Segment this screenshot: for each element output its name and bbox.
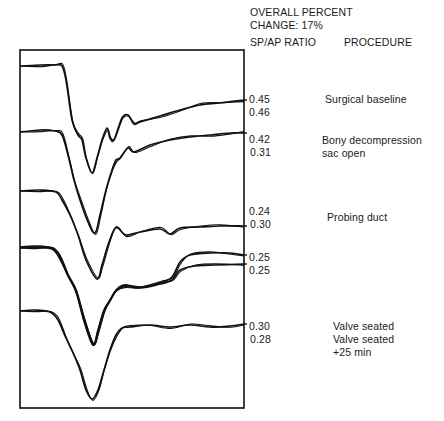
waveform-trace: [20, 246, 244, 345]
procedure-label: Valve seated: [333, 320, 394, 332]
waveform-trace: [20, 310, 244, 399]
procedure-column-header: PROCEDURE: [344, 36, 412, 48]
overall-percent-label: OVERALL PERCENT: [250, 6, 353, 18]
ratio-value: 0.30: [250, 218, 271, 230]
waveform-traces: [20, 63, 244, 400]
ratio-value: 0.25: [249, 251, 270, 263]
ratio-value: 0.46: [249, 106, 270, 118]
procedure-label: Surgical baseline: [325, 93, 407, 105]
waveform-trace: [20, 63, 244, 173]
waveform-trace: [20, 65, 244, 173]
procedure-label: Probing duct: [327, 211, 387, 223]
waveform-trace: [20, 247, 244, 344]
waveform-trace: [20, 130, 244, 233]
ratio-value: 0.31: [250, 146, 271, 158]
ratio-value: 0.30: [249, 320, 270, 332]
procedure-label: +25 min: [333, 346, 371, 358]
ratio-column-header: SP/AP RATIO: [250, 36, 316, 48]
ratio-value: 0.42: [249, 133, 270, 145]
ratio-value: 0.24: [249, 205, 270, 217]
waveform-trace: [20, 311, 244, 400]
waveform-trace: [20, 247, 244, 345]
overall-change-value: CHANGE: 17%: [250, 19, 323, 31]
waveform-trace: [20, 248, 244, 344]
ratio-value: 0.28: [250, 333, 271, 345]
procedure-label: Bony decompression: [322, 134, 422, 146]
waveform-trace: [20, 131, 244, 235]
ratio-value: 0.45: [249, 93, 270, 105]
ratio-value: 0.25: [249, 264, 270, 276]
procedure-label: sac open: [322, 147, 365, 159]
procedure-label: Valve seated: [333, 333, 394, 345]
